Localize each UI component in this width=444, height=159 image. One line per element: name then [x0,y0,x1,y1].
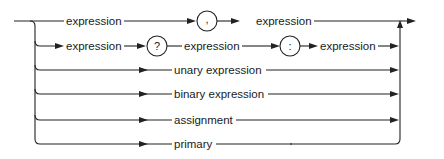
arrow-right-icon [139,141,148,147]
arrow-right-icon [390,117,399,123]
arrow-right-icon [271,43,280,49]
node-primary: primary [174,138,213,150]
arrow-right-icon [231,18,240,24]
comma-symbol: , [205,13,208,25]
node-binary-expression: binary expression [174,88,264,100]
arrow-right-icon [137,43,146,49]
colon-symbol: : [288,40,291,52]
node-assignment: assignment [174,114,234,126]
arrow-right-icon [390,43,399,49]
node-expression: expression [66,40,122,52]
row-2: expression ? expression : expression [55,36,399,56]
node-unary-expression: unary expression [174,64,262,76]
row-5: assignment [139,114,399,126]
arrow-right-icon [390,91,399,97]
node-expression: expression [320,40,376,52]
arrow-right-icon [390,67,399,73]
syntax-diagram: expression , expression expression ? exp… [0,0,444,159]
arrow-right-icon [187,18,196,24]
node-expression: expression [66,15,122,27]
row-3: unary expression [139,64,399,76]
arrow-right-icon [139,117,148,123]
question-symbol: ? [154,40,160,52]
arrow-right-icon [139,67,148,73]
node-expression: expression [256,15,312,27]
right-merge-rail [290,18,416,144]
row-1: expression , expression [66,11,400,31]
arrow-right-icon [55,43,64,49]
arrow-right-icon [139,91,148,97]
arrow-right-icon [309,43,318,49]
exit-arrow-icon [407,18,416,24]
row-6: primary [40,138,292,150]
node-expression: expression [184,40,240,52]
row-4: binary expression [139,88,399,100]
